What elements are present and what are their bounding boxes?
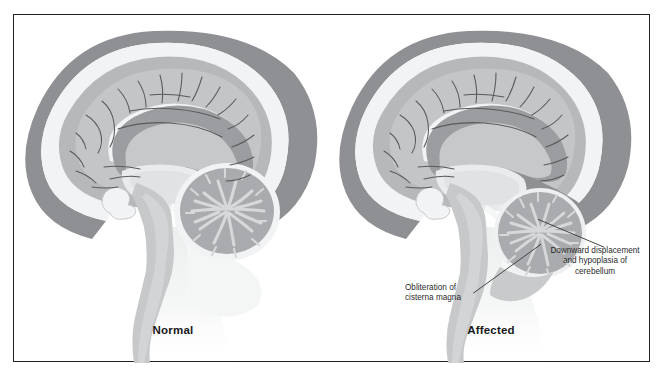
affected-brain-illustration (332, 15, 650, 363)
panel-caption-affected: Affected (332, 324, 650, 336)
annotation-cisterna-magna-label: Obliteration of cisterna magna (405, 283, 501, 304)
panel-affected: Affected (332, 15, 650, 363)
normal-brain-illustration (14, 15, 332, 363)
panel-caption-normal: Normal (14, 324, 332, 336)
panel-normal: Normal (14, 15, 332, 363)
figure-border-frame: Normal (13, 14, 650, 362)
cerebellum (174, 163, 280, 261)
figure-root: Normal (0, 0, 664, 376)
annotation-cerebellum-label: Downward displacement and hypoplasia of … (539, 246, 651, 277)
